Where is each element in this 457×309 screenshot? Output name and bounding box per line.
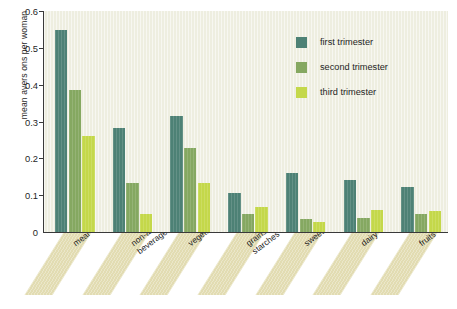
legend-swatch (296, 37, 307, 48)
bar (140, 214, 152, 232)
bar (170, 116, 182, 232)
bar-texture (344, 180, 356, 232)
bar-texture (242, 214, 254, 232)
bar (126, 183, 138, 232)
bar (69, 90, 81, 232)
y-axis-tick-label: 0.2 (12, 153, 38, 164)
bar-texture (357, 218, 369, 232)
bar-texture (255, 207, 267, 232)
bar (242, 214, 254, 232)
y-axis-tick-mark (39, 48, 43, 49)
bar (55, 30, 67, 232)
bar (300, 219, 312, 232)
bar (286, 173, 298, 232)
bar (415, 214, 427, 232)
bar-texture (113, 128, 125, 232)
bar-group (401, 11, 441, 232)
bar-texture (415, 214, 427, 232)
bar-texture (55, 30, 67, 232)
bar-texture (126, 183, 138, 232)
legend-label: second trimester (320, 62, 388, 72)
legend-swatch (296, 62, 307, 73)
y-axis-tick-label: 0.6 (12, 6, 38, 17)
legend-item: first trimester (296, 32, 388, 52)
y-axis-tick-mark (39, 85, 43, 86)
bar-group (113, 11, 153, 232)
legend-item: third trimester (296, 82, 388, 102)
bar-texture (401, 187, 413, 232)
y-axis-tick-mark (39, 11, 43, 12)
bar-texture (371, 210, 383, 232)
x-axis-category-band: mealnon-alcoholicbeveragesvegetablesgrai… (0, 233, 457, 295)
legend-item: second trimester (296, 57, 388, 77)
bar (255, 207, 267, 232)
bar-texture (429, 211, 441, 232)
legend-label: first trimester (320, 37, 373, 47)
bar-texture (184, 148, 196, 232)
bar-texture (69, 90, 81, 232)
bar-texture (300, 219, 312, 232)
bar (357, 218, 369, 232)
x-axis-category-label: vegetables (186, 233, 224, 248)
bar (371, 210, 383, 232)
bar-texture (228, 193, 240, 232)
y-axis-tick-label: 0.1 (12, 190, 38, 201)
bar (429, 211, 441, 232)
y-axis-tick-label: 0.4 (12, 79, 38, 90)
bar (113, 128, 125, 232)
bar-texture (170, 116, 182, 232)
bar-texture (140, 214, 152, 232)
y-axis-tick-mark (39, 122, 43, 123)
bar-group (55, 11, 95, 232)
bar (184, 148, 196, 232)
bar-chart-figure: mean avers ons per woman 00.10.20.30.40.… (0, 0, 457, 309)
legend-swatch (296, 87, 307, 98)
y-axis-tick-label: 0.5 (12, 42, 38, 53)
bar (344, 180, 356, 232)
bar-group (228, 11, 268, 232)
bar (82, 136, 94, 233)
y-axis-tick-mark (39, 158, 43, 159)
bar (313, 222, 325, 232)
bar-texture (313, 222, 325, 232)
bar (198, 183, 210, 232)
bar (228, 193, 240, 232)
bar (401, 187, 413, 232)
y-axis-tick-label: 0.3 (12, 116, 38, 127)
y-axis-tick-mark (39, 195, 43, 196)
bar-group (170, 11, 210, 232)
bar-texture (198, 183, 210, 232)
legend: first trimestersecond trimesterthird tri… (296, 32, 388, 107)
bar-texture (82, 136, 94, 233)
legend-label: third trimester (320, 87, 376, 97)
bar-texture (286, 173, 298, 232)
